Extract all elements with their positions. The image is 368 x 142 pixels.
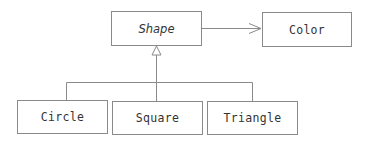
class-circle-label: Circle bbox=[41, 110, 84, 124]
class-square: Square bbox=[112, 101, 203, 135]
association-arrow bbox=[201, 24, 261, 34]
diagram-canvas: Shape Color Circle Square Triangle bbox=[0, 0, 368, 142]
class-color-label: Color bbox=[289, 23, 325, 37]
class-shape-label: Shape bbox=[138, 22, 174, 36]
class-triangle-label: Triangle bbox=[224, 111, 282, 125]
class-square-label: Square bbox=[136, 111, 179, 125]
generalization-arrow bbox=[67, 46, 253, 101]
class-triangle: Triangle bbox=[207, 101, 298, 135]
class-circle: Circle bbox=[17, 100, 108, 134]
class-color: Color bbox=[262, 12, 352, 47]
class-shape: Shape bbox=[111, 11, 202, 46]
